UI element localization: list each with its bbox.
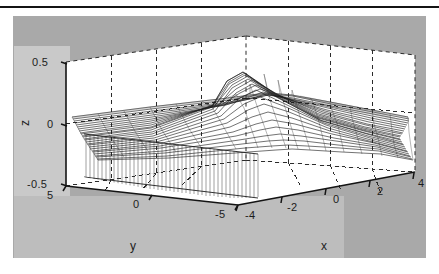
y-axis-title: y (130, 240, 136, 252)
xtick-4 (413, 173, 414, 179)
xtick-m4 (236, 205, 238, 211)
x-tick-m2: -2 (287, 202, 297, 213)
y-tick-m5: -5 (215, 209, 225, 220)
x-tick-2: 2 (377, 186, 383, 197)
y-tick-5: 5 (47, 190, 53, 201)
y-tick-0: 0 (133, 199, 139, 210)
figure-page: 0.5 0 -0.5 5 0 -5 -4 -2 0 2 4 z y x (0, 0, 439, 274)
x-axis-title: x (321, 240, 327, 252)
xtick-2 (369, 181, 370, 187)
z-axis-title: z (19, 120, 31, 126)
x-tick-m4: -4 (245, 210, 255, 221)
x-tick-0: 0 (333, 194, 339, 205)
z-tick-m0-5: -0.5 (27, 179, 47, 190)
xtick-m2 (281, 197, 282, 203)
z-tick-0: 0 (47, 119, 53, 130)
surface-plot-axes (0, 0, 439, 274)
xtick-0 (325, 189, 326, 195)
ytick-5 (63, 186, 66, 191)
x-tick-4: 4 (418, 178, 424, 189)
z-tick-0-5: 0.5 (32, 57, 48, 68)
